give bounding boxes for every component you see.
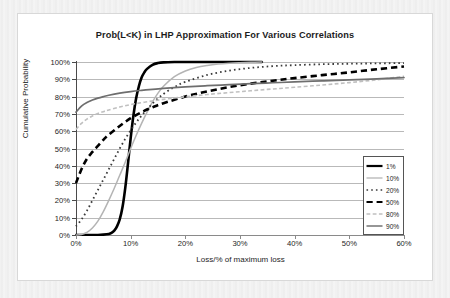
legend-line-swatch xyxy=(366,174,383,182)
legend-line-swatch xyxy=(366,198,383,206)
chart-legend: 1%10%20%50%80%90% xyxy=(363,156,404,235)
legend-item-label: 90% xyxy=(386,223,399,230)
chart-figure: Prob(L<K) in LHP Approximation For Vario… xyxy=(0,0,450,298)
series-line-20pct xyxy=(76,63,404,226)
legend-line-swatch xyxy=(366,210,383,218)
legend-item[interactable]: 80% xyxy=(366,208,401,220)
legend-item-label: 10% xyxy=(386,175,399,182)
legend-item[interactable]: 90% xyxy=(366,220,401,232)
legend-line-swatch xyxy=(366,222,383,230)
series-lines xyxy=(0,0,450,298)
legend-line-swatch xyxy=(366,186,383,194)
legend-item[interactable]: 1% xyxy=(366,160,401,172)
legend-item[interactable]: 50% xyxy=(366,196,401,208)
legend-item-label: 80% xyxy=(386,211,399,218)
legend-item-label: 50% xyxy=(386,199,399,206)
legend-item[interactable]: 20% xyxy=(366,184,401,196)
legend-item-label: 20% xyxy=(386,187,399,194)
legend-line-swatch xyxy=(366,162,383,170)
legend-item[interactable]: 10% xyxy=(366,172,401,184)
legend-item-label: 1% xyxy=(386,163,396,170)
